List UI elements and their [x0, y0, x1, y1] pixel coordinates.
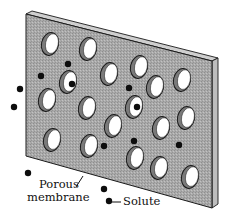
- solute-particle-9: [131, 138, 137, 144]
- porous-membrane-label-line1: Porous: [39, 179, 79, 191]
- porous-membrane-label-line2: membrane: [27, 192, 90, 204]
- solute-particle-2: [38, 73, 44, 79]
- solute-particle-5: [69, 81, 75, 87]
- solute-particle-3: [17, 86, 23, 92]
- solute-particle-8: [101, 143, 107, 149]
- solute-label: Solute: [123, 196, 160, 208]
- porous-membrane-diagram: [0, 0, 228, 220]
- solute-particle-4: [11, 104, 17, 110]
- solute-particle-13: [106, 198, 112, 204]
- solute-particle-7: [134, 104, 140, 110]
- solute-particle-10: [176, 142, 182, 148]
- solute-particle-6: [126, 85, 132, 91]
- solute-particle-1: [65, 61, 71, 67]
- solute-particle-11: [25, 170, 31, 176]
- solute-particle-12: [101, 186, 107, 192]
- membrane-right-edge: [212, 58, 218, 208]
